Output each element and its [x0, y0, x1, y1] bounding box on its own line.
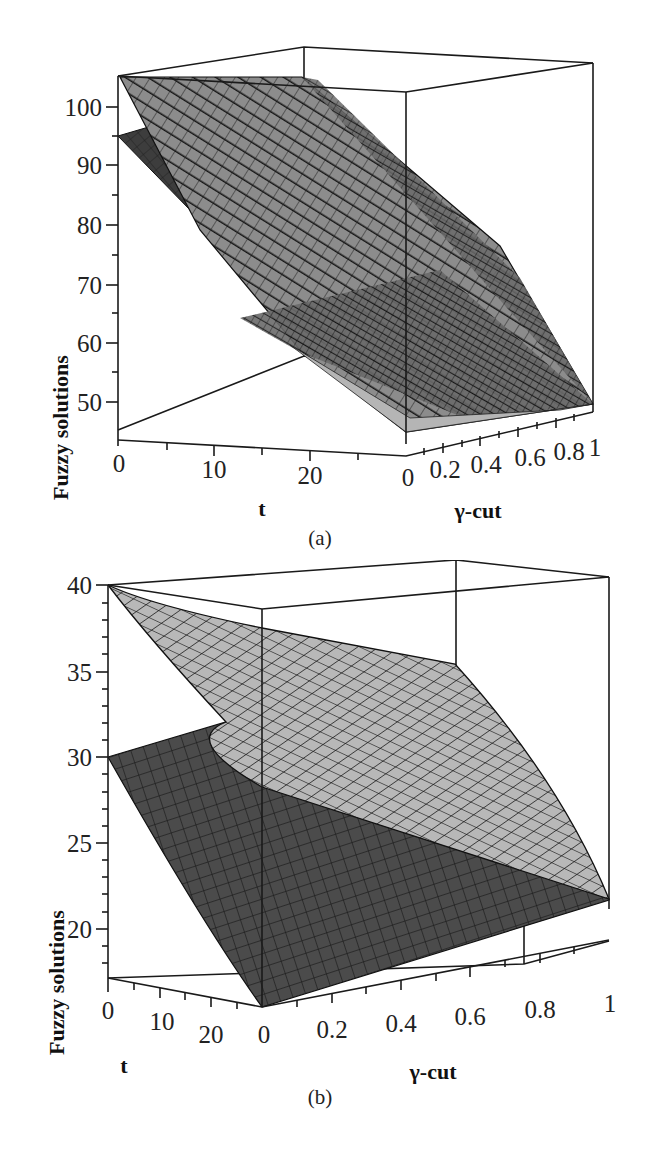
- t-axis-title: t: [258, 496, 266, 521]
- gamma-tick-label: 0.4: [385, 1010, 417, 1037]
- t-tick-label: 10: [150, 1008, 175, 1035]
- z-tick-label: 80: [77, 212, 102, 239]
- z-tick-label: 70: [77, 272, 102, 299]
- gamma-tick-label: 0: [402, 464, 415, 491]
- z-tick-label: 40: [67, 572, 92, 599]
- z-tick-label: 30: [67, 744, 92, 771]
- gamma-tick-label: 0: [258, 1021, 271, 1048]
- t-tick-label: 20: [298, 462, 323, 489]
- gamma-tick-label: 0.2: [429, 456, 460, 483]
- t-axis-a: 0 10 20: [113, 443, 358, 489]
- z-axis-title: Fuzzy solutions: [48, 355, 73, 500]
- gamma-tick-label: 0.4: [470, 451, 502, 478]
- gamma-tick-label: 0.2: [316, 1016, 347, 1043]
- surface-plot-a: 100 90 80 70 60 50 0 10 20 0 0.2 0.4 0.6…: [0, 0, 648, 560]
- gamma-tick-label: 0.8: [524, 996, 555, 1023]
- z-tick-label: 20: [67, 916, 92, 943]
- t-tick-label: 0: [113, 450, 126, 477]
- figure-b: 40 35 30 25 20 0 10 20 0 0.2 0.4 0.6 0.8…: [0, 560, 648, 1156]
- gamma-tick-label: 0.8: [553, 438, 584, 465]
- gamma-tick-label: 0.6: [514, 444, 545, 471]
- z-tick-label: 90: [77, 152, 102, 179]
- z-axis-title: Fuzzy solutions: [44, 910, 69, 1055]
- t-tick-label: 20: [199, 1021, 224, 1048]
- z-tick-label: 25: [67, 830, 92, 857]
- gamma-axis-title: γ-cut: [454, 498, 503, 523]
- t-tick-label: 0: [102, 997, 115, 1024]
- z-tick-label: 50: [77, 389, 102, 416]
- t-tick-label: 10: [202, 456, 227, 483]
- z-axis-b: 40 35 30 25 20: [67, 572, 108, 963]
- z-tick-label: 100: [65, 94, 103, 121]
- gamma-tick-label: 0.6: [454, 1003, 485, 1030]
- gamma-axis-title: γ-cut: [409, 1059, 458, 1084]
- gamma-tick-label: 1: [589, 434, 602, 461]
- z-tick-label: 35: [67, 659, 92, 686]
- t-axis-b: 0 10 20: [102, 983, 237, 1048]
- t-axis-title: t: [120, 1053, 128, 1078]
- figure-a: 100 90 80 70 60 50 0 10 20 0 0.2 0.4 0.6…: [0, 0, 648, 560]
- figure-caption-b: (b): [308, 1085, 333, 1109]
- figure-caption-a: (a): [308, 526, 331, 550]
- surface-plot-b: 40 35 30 25 20 0 10 20 0 0.2 0.4 0.6 0.8…: [0, 560, 648, 1156]
- gamma-tick-label: 1: [604, 990, 617, 1017]
- z-tick-label: 60: [77, 330, 102, 357]
